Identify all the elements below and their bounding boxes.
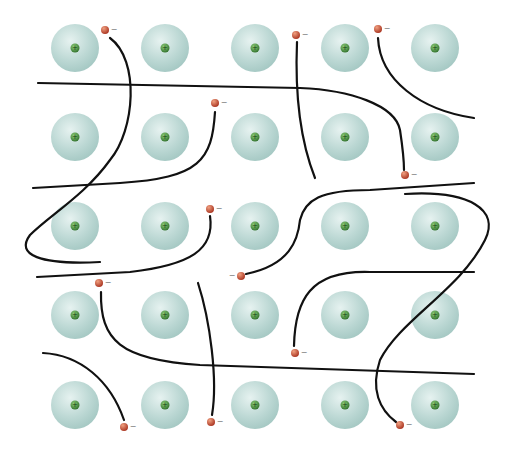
minus-sign: −	[406, 420, 413, 429]
plus-sign: +	[72, 133, 78, 141]
positive-ion: +	[321, 381, 369, 429]
plus-sign: +	[342, 222, 348, 230]
minus-sign: −	[130, 422, 137, 431]
positive-ion: +	[321, 202, 369, 250]
positive-ion: +	[321, 291, 369, 339]
positive-ion: +	[141, 113, 189, 161]
plus-sign: +	[252, 401, 258, 409]
plus-sign: +	[72, 222, 78, 230]
electron: −	[120, 422, 136, 431]
electron: −	[396, 420, 412, 429]
plus-sign: +	[432, 311, 438, 319]
minus-sign: −	[111, 25, 118, 34]
plus-sign: +	[72, 401, 78, 409]
plus-sign: +	[252, 133, 258, 141]
plus-sign: +	[342, 133, 348, 141]
positive-ion: +	[411, 381, 459, 429]
plus-sign: +	[342, 311, 348, 319]
positive-ion: +	[51, 202, 99, 250]
minus-sign: −	[217, 417, 224, 426]
positive-ion: +	[411, 113, 459, 161]
plus-sign: +	[432, 133, 438, 141]
plus-sign: +	[252, 311, 258, 319]
plus-sign: +	[432, 44, 438, 52]
electron: −	[401, 170, 417, 179]
positive-ion: +	[51, 381, 99, 429]
metal-lattice-diagram: +++++++++++++++++++++++++ −−−−−−−−−−−−	[0, 0, 510, 458]
electron: −	[291, 348, 307, 357]
electron: −	[95, 278, 111, 287]
positive-ion: +	[141, 24, 189, 72]
minus-sign: −	[216, 204, 223, 213]
plus-sign: +	[162, 133, 168, 141]
plus-sign: +	[432, 222, 438, 230]
positive-ion: +	[321, 24, 369, 72]
plus-sign: +	[162, 311, 168, 319]
plus-sign: +	[252, 222, 258, 230]
electron: −	[101, 25, 117, 34]
minus-sign: −	[302, 30, 309, 39]
electron: −	[211, 98, 227, 107]
minus-sign: −	[301, 348, 308, 357]
positive-ion: +	[411, 24, 459, 72]
plus-sign: +	[162, 44, 168, 52]
positive-ion: +	[141, 381, 189, 429]
minus-sign: −	[384, 24, 391, 33]
minus-sign: −	[411, 170, 418, 179]
positive-ion: +	[141, 291, 189, 339]
positive-ion: +	[51, 24, 99, 72]
electron: −	[229, 271, 245, 280]
plus-sign: +	[162, 401, 168, 409]
positive-ion: +	[51, 113, 99, 161]
positive-ion: +	[321, 113, 369, 161]
plus-sign: +	[342, 44, 348, 52]
plus-sign: +	[162, 222, 168, 230]
plus-sign: +	[72, 44, 78, 52]
minus-sign: −	[221, 98, 228, 107]
positive-ion: +	[231, 202, 279, 250]
electron: −	[374, 24, 390, 33]
positive-ion: +	[231, 24, 279, 72]
electron-path	[198, 283, 214, 415]
plus-sign: +	[342, 401, 348, 409]
plus-sign: +	[432, 401, 438, 409]
electron: −	[206, 204, 222, 213]
electron: −	[292, 30, 308, 39]
electron-path	[297, 42, 315, 178]
positive-ion: +	[411, 202, 459, 250]
plus-sign: +	[72, 311, 78, 319]
positive-ion: +	[231, 291, 279, 339]
minus-sign: −	[105, 278, 112, 287]
electron: −	[207, 417, 223, 426]
minus-sign: −	[229, 271, 236, 280]
plus-sign: +	[252, 44, 258, 52]
positive-ion: +	[231, 381, 279, 429]
positive-ion: +	[51, 291, 99, 339]
positive-ion: +	[231, 113, 279, 161]
positive-ion: +	[141, 202, 189, 250]
